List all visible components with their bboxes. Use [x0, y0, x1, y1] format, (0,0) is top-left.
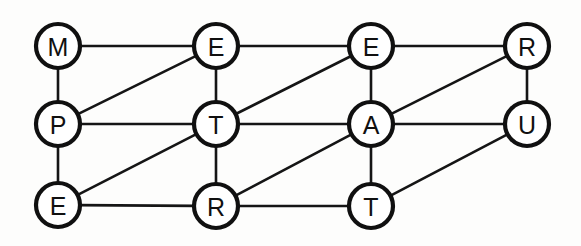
- node-label: E: [363, 33, 380, 61]
- graph-node[interactable]: M: [36, 24, 80, 68]
- graph-node[interactable]: R: [194, 184, 238, 228]
- nodes-layer: MEERPTAUERT: [36, 24, 549, 228]
- node-label: E: [50, 192, 67, 220]
- graph-node[interactable]: E: [349, 24, 393, 68]
- graph-edge: [389, 55, 508, 115]
- node-label: T: [208, 111, 223, 139]
- graph-canvas: MEERPTAUERT: [0, 0, 581, 246]
- node-label: U: [518, 111, 536, 139]
- graph-edge: [234, 55, 352, 115]
- graph-edge: [76, 55, 197, 115]
- edges-layer: [58, 46, 527, 206]
- graph-node[interactable]: T: [194, 102, 238, 146]
- node-label: E: [208, 33, 225, 61]
- graph-node[interactable]: E: [194, 24, 238, 68]
- node-label: A: [363, 111, 380, 139]
- graph-node[interactable]: U: [505, 102, 549, 146]
- node-label: R: [518, 33, 536, 61]
- node-label: P: [50, 111, 67, 139]
- graph-node[interactable]: T: [349, 184, 393, 228]
- graph-node[interactable]: A: [349, 102, 393, 146]
- graph-edge: [79, 205, 196, 206]
- graph-diagram: MEERPTAUERT: [0, 0, 581, 246]
- graph-node[interactable]: P: [36, 102, 80, 146]
- node-label: R: [207, 193, 225, 221]
- node-label: M: [48, 33, 69, 61]
- graph-edge: [389, 134, 509, 197]
- graph-edge: [76, 133, 198, 195]
- graph-edge: [234, 134, 353, 197]
- graph-node[interactable]: R: [505, 24, 549, 68]
- node-label: T: [363, 193, 378, 221]
- graph-node[interactable]: E: [36, 183, 80, 227]
